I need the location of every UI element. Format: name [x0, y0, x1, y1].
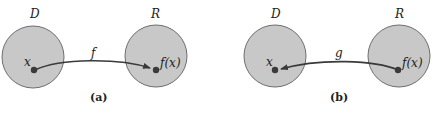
domain-set-d — [244, 25, 306, 87]
arrow-label-g: g — [335, 46, 343, 60]
domain-label: D — [270, 7, 281, 21]
panel-a: D R x f(x) f (a) — [2, 7, 187, 104]
domain-set-d — [2, 26, 64, 88]
function-mapping-diagram: D R x f(x) f (a) D R x f(x) g (b) — [0, 0, 437, 117]
range-label: R — [394, 7, 404, 21]
caption-b: (b) — [330, 91, 348, 104]
point-fx-label: f(x) — [159, 56, 181, 70]
point-fx — [395, 67, 401, 73]
point-fx-label: f(x) — [401, 56, 423, 70]
panel-b: D R x f(x) g (b) — [244, 7, 430, 104]
caption-a: (a) — [90, 91, 108, 104]
point-fx — [153, 67, 159, 73]
range-label: R — [150, 7, 160, 21]
point-x-label: x — [24, 55, 31, 69]
arrow-label-f: f — [90, 46, 98, 60]
point-x — [31, 67, 37, 73]
point-x-label: x — [266, 55, 273, 69]
domain-label: D — [29, 7, 40, 21]
